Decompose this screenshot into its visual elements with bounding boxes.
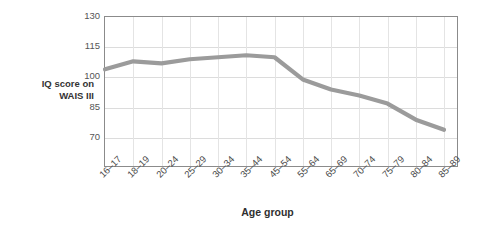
y-axis-title: IQ score on WAIS III — [6, 78, 94, 102]
series-line-iq-score — [105, 17, 459, 168]
plot-area — [104, 16, 458, 167]
x-axis-title: Age group — [0, 206, 481, 218]
y-axis-tick-label: 70 — [74, 131, 100, 142]
y-axis-tick-label: 100 — [74, 70, 100, 81]
y-axis-tick-label: 130 — [74, 10, 100, 21]
y-axis-tick-label: 85 — [74, 101, 100, 112]
y-axis-tick-label: 115 — [74, 40, 100, 51]
iq-by-age-line-chart: IQ score on WAIS III 1301151008570 16–17… — [0, 0, 481, 228]
series-polyline — [105, 55, 444, 130]
